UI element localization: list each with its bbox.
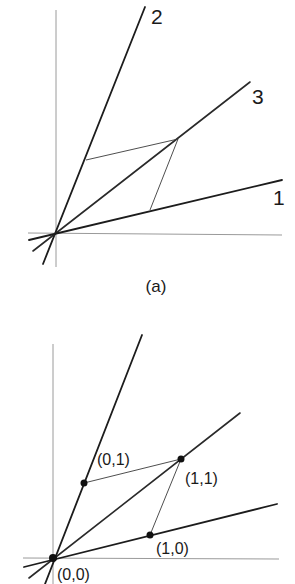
label-0-1: (0,1) [97,451,130,468]
figure: 2 3 1 (a) (0,1) (1,1) (1,0) (0,0) [0,0,295,584]
panel-b: (0,1) (1,1) (1,0) (0,0) [23,335,279,584]
point-0-1 [81,480,88,487]
ray-3-b [29,413,240,578]
panel-a: 2 3 1 (a) [28,5,285,296]
ray-1-a [29,180,282,240]
point-1-1 [178,456,185,463]
point-1-0 [147,532,154,539]
panel-a-caption: (a) [146,277,167,296]
label-1-1: (1,1) [185,470,218,487]
label-origin: (0,0) [57,566,90,583]
ray-2-label: 2 [151,5,163,28]
ray-3-a [33,82,250,251]
x-axis-a [28,233,282,235]
point-origin [49,554,57,562]
label-1-0: (1,0) [156,540,189,557]
ray-3-label: 3 [252,85,264,108]
ray-1-label: 1 [273,186,285,209]
